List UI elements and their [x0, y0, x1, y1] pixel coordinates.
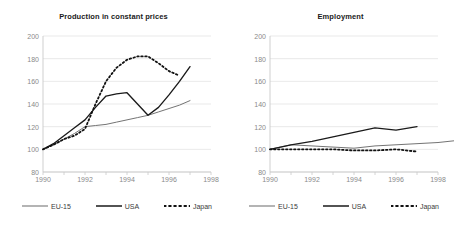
x-tick-label: 1992: [304, 176, 320, 183]
series-lines-production: [43, 56, 190, 149]
legend-item-japan[interactable]: Japan: [164, 203, 212, 210]
legend-item-japan[interactable]: Japan: [391, 203, 439, 210]
y-axis-labels-production: 80100120140160180200: [13, 36, 39, 172]
series-line-eu15: [270, 140, 454, 149]
series-line-eu15: [43, 101, 190, 150]
chart-panel-employment: Employment 80100120140160180200 19901992…: [227, 0, 454, 227]
y-tick-label: 160: [15, 78, 39, 85]
x-tick-label: 1998: [203, 176, 219, 183]
y-tick-label: 80: [242, 169, 266, 176]
legend-item-eu15[interactable]: EU-15: [249, 203, 298, 210]
legend-label: USA: [352, 203, 366, 210]
chart-panel-production: Production in constant prices 8010012014…: [0, 0, 227, 227]
legend-swatch-icon: [391, 203, 417, 209]
x-tick-label: 1998: [430, 176, 446, 183]
series-line-usa: [43, 67, 190, 150]
legend-swatch-icon: [249, 203, 275, 209]
y-tick-label: 180: [15, 55, 39, 62]
legend-swatch-icon: [164, 203, 190, 209]
chart-title-employment: Employment: [227, 12, 454, 21]
y-tick-label: 140: [242, 101, 266, 108]
plot-svg-production: [43, 36, 211, 172]
legend-production: EU-15USAJapan: [22, 199, 212, 213]
x-tick-label: 1994: [119, 176, 135, 183]
plot-area-employment: [270, 36, 438, 172]
x-tick-label: 1992: [77, 176, 93, 183]
series-line-usa: [270, 127, 417, 150]
legend-label: USA: [125, 203, 139, 210]
y-tick-label: 200: [15, 33, 39, 40]
axis-production: [43, 36, 211, 175]
chart-title-production: Production in constant prices: [0, 12, 227, 21]
y-axis-labels-employment: 80100120140160180200: [240, 36, 266, 172]
legend-label: Japan: [420, 203, 439, 210]
y-tick-label: 80: [15, 169, 39, 176]
x-tick-label: 1996: [161, 176, 177, 183]
x-tick-label: 1994: [346, 176, 362, 183]
x-tick-label: 1990: [262, 176, 278, 183]
y-tick-label: 180: [242, 55, 266, 62]
legend-item-usa[interactable]: USA: [96, 203, 139, 210]
y-tick-label: 140: [15, 101, 39, 108]
y-tick-label: 100: [242, 146, 266, 153]
plot-area-production: [43, 36, 211, 172]
x-tick-label: 1996: [388, 176, 404, 183]
y-tick-label: 160: [242, 78, 266, 85]
legend-swatch-icon: [96, 203, 122, 209]
legend-item-usa[interactable]: USA: [323, 203, 366, 210]
series-lines-employment: [270, 127, 454, 152]
legend-swatch-icon: [22, 203, 48, 209]
x-tick-label: 1990: [35, 176, 51, 183]
figure-root: Production in constant prices 8010012014…: [0, 0, 454, 227]
x-axis-labels-employment: 19901992199419961998: [270, 176, 438, 188]
y-tick-label: 100: [15, 146, 39, 153]
legend-label: Japan: [193, 203, 212, 210]
gridlines-production: [43, 36, 211, 172]
axis-employment: [270, 36, 438, 175]
legend-employment: EU-15USAJapan: [249, 199, 439, 213]
y-tick-label: 200: [242, 33, 266, 40]
legend-label: EU-15: [51, 203, 71, 210]
y-tick-label: 120: [242, 123, 266, 130]
series-line-japan: [270, 149, 417, 151]
legend-label: EU-15: [278, 203, 298, 210]
y-tick-label: 120: [15, 123, 39, 130]
gridlines-employment: [270, 36, 438, 172]
plot-svg-employment: [270, 36, 438, 172]
legend-item-eu15[interactable]: EU-15: [22, 203, 71, 210]
x-axis-labels-production: 19901992199419961998: [43, 176, 211, 188]
legend-swatch-icon: [323, 203, 349, 209]
